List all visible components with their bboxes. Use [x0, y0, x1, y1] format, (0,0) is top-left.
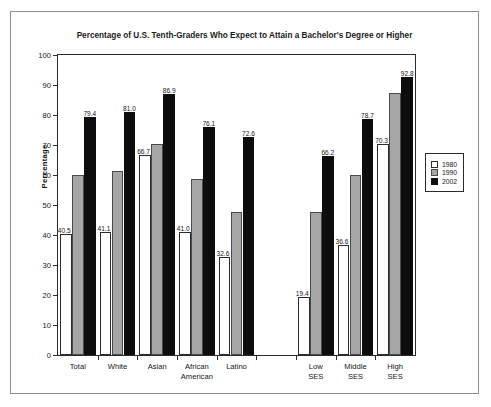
bar-value-label: 70.3 [375, 137, 388, 144]
bar-value-label: 81.0 [123, 105, 136, 112]
y-axis-tick-label: 50 [43, 201, 51, 210]
bar-value-label: 66.7 [137, 148, 150, 155]
bar-1990-white [112, 171, 124, 355]
x-axis-group-label-line: African [181, 362, 213, 372]
y-axis-tick-label: 70 [43, 141, 51, 150]
y-axis-tick [53, 325, 58, 326]
bar-value-label: 40.5 [58, 227, 71, 234]
x-axis-group-label-line: Total [70, 362, 86, 372]
bar-value-label: 36.6 [336, 238, 349, 245]
bar-2002-high-ses: 92.8 [401, 77, 413, 355]
legend-swatch-icon [431, 161, 438, 168]
bar-2002-white: 81.0 [124, 112, 136, 355]
x-axis-group-label: Latino [226, 362, 247, 372]
x-axis-group-label-line: White [108, 362, 127, 372]
x-axis-group-label: HighSES [387, 362, 403, 382]
y-axis-tick [53, 295, 58, 296]
x-axis-group-label: White [108, 362, 127, 372]
bar-1980-latino: 32.6 [219, 257, 231, 355]
x-axis-tick [177, 355, 178, 360]
y-axis-tick [53, 55, 58, 56]
bar-value-label: 41.1 [98, 225, 111, 232]
bar-value-label: 76.1 [202, 120, 215, 127]
bar-value-label: 86.9 [163, 87, 176, 94]
y-axis-tick-label: 80 [43, 111, 51, 120]
bar-1990-african-american [191, 179, 203, 355]
bar-value-label: 66.2 [321, 149, 334, 156]
bar-2002-african-american: 76.1 [203, 127, 215, 355]
bar-2002-low-ses: 66.2 [322, 156, 334, 355]
figure-frame: Percentage of U.S. Tenth-Graders Who Exp… [10, 11, 479, 394]
bar-1980-total: 40.5 [60, 234, 72, 356]
y-axis-tick [53, 235, 58, 236]
legend-item-2002: 2002 [431, 178, 457, 185]
plot-area: 0102030405060708090100 40.579.441.181.06… [57, 54, 416, 356]
bar-2002-total: 79.4 [84, 117, 96, 355]
x-axis-tick [137, 355, 138, 360]
x-axis-tick [256, 355, 257, 360]
bar-value-label: 79.4 [83, 110, 96, 117]
bar-1980-middle-ses: 36.6 [338, 245, 350, 355]
y-axis-tick-label: 100 [38, 51, 51, 60]
bar-value-label: 41.0 [177, 225, 190, 232]
y-axis-tick-label: 20 [43, 291, 51, 300]
bar-2002-asian: 86.9 [163, 94, 175, 355]
x-axis-group-label-line: Low [308, 362, 323, 372]
y-axis-tick-label: 30 [43, 261, 51, 270]
bar-1980-asian: 66.7 [139, 155, 151, 355]
bar-1980-high-ses: 70.3 [377, 144, 389, 355]
bar-1990-latino [231, 212, 243, 355]
x-axis-tick [296, 355, 297, 360]
x-axis-group-label: MiddleSES [344, 362, 366, 382]
legend-item-1990: 1990 [431, 169, 457, 176]
x-axis-group-label-line: Latino [226, 362, 247, 372]
legend-item-label: 1980 [442, 161, 457, 168]
chart-legend: 198019902002 [425, 153, 464, 192]
y-axis-tick [53, 355, 58, 356]
bar-1990-middle-ses [350, 175, 362, 355]
bar-value-label: 72.6 [242, 130, 255, 137]
y-axis-tick-label: 0 [47, 351, 51, 360]
bar-1990-asian [151, 144, 163, 355]
x-axis-group-label-line: High [387, 362, 403, 372]
bar-value-label: 78.7 [361, 112, 374, 119]
bar-1990-low-ses [310, 212, 322, 355]
x-axis-group-label-line: SES [344, 372, 366, 382]
bar-value-label: 19.4 [296, 290, 309, 297]
bar-1980-white: 41.1 [100, 232, 112, 355]
x-axis-tick [336, 355, 337, 360]
legend-item-1980: 1980 [431, 161, 457, 168]
x-axis-group-label: Asian [148, 362, 167, 372]
y-axis-tick [53, 145, 58, 146]
y-axis-title: Percentage [40, 122, 49, 212]
x-axis-group-label-line: SES [387, 372, 403, 382]
x-axis-tick [217, 355, 218, 360]
bar-2002-middle-ses: 78.7 [362, 119, 374, 355]
x-axis-group-label: LowSES [308, 362, 323, 382]
y-axis-tick-label: 40 [43, 231, 51, 240]
y-axis-tick [53, 115, 58, 116]
legend-item-label: 2002 [442, 178, 457, 185]
y-axis-tick [53, 175, 58, 176]
bar-value-label: 92.8 [401, 70, 414, 77]
legend-swatch-icon [431, 178, 438, 185]
bar-1990-total [72, 175, 84, 355]
y-axis-tick [53, 265, 58, 266]
x-axis-group-label-line: American [181, 372, 213, 382]
x-axis-group-label: AfricanAmerican [181, 362, 213, 382]
x-axis-group-label-line: Asian [148, 362, 167, 372]
y-axis-tick [53, 85, 58, 86]
y-axis-tick-label: 10 [43, 321, 51, 330]
y-axis-tick-label: 60 [43, 171, 51, 180]
y-axis-tick [53, 205, 58, 206]
bar-1990-high-ses [389, 93, 401, 355]
y-axis-tick-label: 90 [43, 81, 51, 90]
bar-2002-latino: 72.6 [243, 137, 255, 355]
chart-title: Percentage of U.S. Tenth-Graders Who Exp… [11, 31, 478, 40]
x-axis-group-label-line: SES [308, 372, 323, 382]
bar-1980-african-american: 41.0 [179, 232, 191, 355]
x-axis-group-label-line: Middle [344, 362, 366, 372]
bar-1980-low-ses: 19.4 [298, 297, 310, 355]
x-axis-tick [98, 355, 99, 360]
bar-value-label: 32.6 [217, 250, 230, 257]
